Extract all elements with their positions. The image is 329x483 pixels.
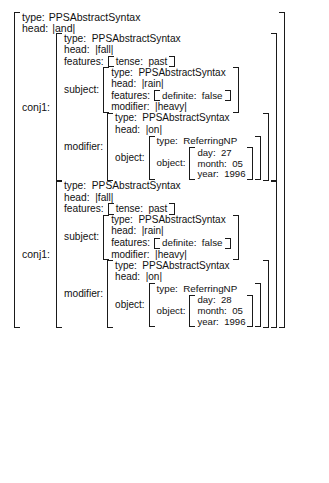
conj1-inner-object-label: object: <box>157 306 190 316</box>
conj1-features-bracket-left <box>108 203 114 214</box>
conj0-head-label: head: <box>64 44 92 55</box>
conj1-subject-avm: type: PPSAbstractSyntax head: |rain| fea <box>103 215 238 261</box>
conj0-modifier-head-value: |on| <box>146 124 162 135</box>
conj0-modifier-head-label: head: <box>115 124 143 135</box>
conj0-year-label: year: <box>197 168 221 179</box>
feature-structure-diagram: type: PPSAbstractSyntax head: |and| conj… <box>14 12 285 328</box>
conj0-subject-modifier-label: modifier: <box>111 101 152 112</box>
conj0-subject-features-label: features: <box>111 91 154 101</box>
conj0-subject-bracket-right <box>233 67 239 113</box>
conj0-date-bracket-left <box>189 147 195 179</box>
conj1-modifier-body: type: PPSAbstractSyntax head: |on| objec <box>115 260 261 328</box>
conj1-subject-type-value: PPSAbstractSyntax <box>138 214 225 225</box>
conj1-definite-value: false <box>202 237 223 248</box>
conj1-year-label: year: <box>197 316 221 327</box>
conj0-day-value: 27 <box>221 147 232 158</box>
conj0-features-bracket-left <box>108 56 114 67</box>
conj0-modifier-bracket-right <box>263 113 269 181</box>
conj1-modifier-label: modifier: <box>64 289 107 299</box>
conj0-tense-label: tense: <box>116 56 146 67</box>
conj0-subject-modifier-row: modifier: |heavy| <box>111 102 230 113</box>
conj0-subject-head-row: head: |rain| <box>111 79 230 90</box>
conj1-type-label: type: <box>64 180 89 191</box>
root-bracket-right <box>279 12 285 328</box>
conj0-features-bracket-right <box>169 56 175 67</box>
conj0-head-row: head: |fall| <box>64 45 269 56</box>
conj0-month-label: month: <box>197 158 229 169</box>
conj0-year-row: year: 1996 <box>197 169 245 180</box>
conj1-subject-modifier-label: modifier: <box>111 249 152 260</box>
conj1-modifier-head-row: head: |on| <box>115 271 261 282</box>
conj0-object-label: object: <box>115 153 148 163</box>
conj0-month-row: month: 05 <box>197 158 245 169</box>
conj0-modifier-bracket-left <box>107 113 113 181</box>
conj0-object-row: object: type: ReferringNP <box>115 135 261 180</box>
conj0-subject-features-bracket-left <box>154 90 160 101</box>
conj1-subject-head-row: head: |rain| <box>111 226 230 237</box>
conj1-month-label: month: <box>197 305 229 316</box>
conj0-subject-features-bracket-right <box>225 90 231 101</box>
conj1-tense-label: tense: <box>116 203 146 214</box>
conj0-date-avm: day: 27 month: 05 <box>189 147 253 179</box>
conjunct-bracket-right-0 <box>271 33 277 180</box>
conj1-subject-head-label: head: <box>111 225 139 236</box>
conj1-object-row: object: type: ReferringNP <box>115 283 261 328</box>
conj0-type-label: type: <box>64 33 89 44</box>
conj1-subject-bracket-left <box>103 215 109 261</box>
conj0-object-type-label: type: <box>157 135 181 146</box>
conj0-modifier-row: modifier: type: PPSAbstractSyntax <box>64 113 269 181</box>
conj0-modifier-body: type: PPSAbstractSyntax head: |on| objec <box>115 113 261 181</box>
conj1-head-value: |fall| <box>95 192 113 203</box>
conj1-features-bracket-right <box>169 203 175 214</box>
conj1-type-row: type: PPSAbstractSyntax <box>64 181 269 192</box>
conj0-subject-head-label: head: <box>111 78 139 89</box>
conj0-object-body: type: ReferringNP object: <box>157 136 254 180</box>
conj0-subject-label: subject: <box>64 85 103 95</box>
conj0-object-avm: type: ReferringNP object: <box>149 136 262 180</box>
conj1-subject-features-row: features: definite: false <box>111 237 230 249</box>
conj1-day-label: day: <box>197 294 218 305</box>
conj1-object-bracket-left <box>149 283 155 327</box>
conjunct-row-0: conj1: type: PPSAbstractSyntax head: |fa… <box>22 33 277 180</box>
conj1-object-label: object: <box>115 300 148 310</box>
conj1-modifier-type-row: type: PPSAbstractSyntax <box>115 260 261 271</box>
conj1-head-label: head: <box>64 192 92 203</box>
conj0-modifier-type-row: type: PPSAbstractSyntax <box>115 113 261 124</box>
conj1-head-row: head: |fall| <box>64 192 269 203</box>
conj0-subject-modifier-value: |heavy| <box>155 101 187 112</box>
conj1-modifier-bracket-left <box>107 260 113 328</box>
conj0-modifier-head-row: head: |on| <box>115 124 261 135</box>
conjunct-body-1: type: PPSAbstractSyntax head: |fall| fea… <box>64 181 269 328</box>
conj1-object-body: type: ReferringNP object: <box>157 283 254 327</box>
conjunct-avm-0: type: PPSAbstractSyntax head: |fall| fea… <box>56 33 277 180</box>
conj0-date-bracket-right <box>247 147 253 179</box>
conj1-year-row: year: 1996 <box>197 316 245 327</box>
conj1-object-type-value: ReferringNP <box>183 283 237 294</box>
root-avm-body: type: PPSAbstractSyntax head: |and| conj… <box>22 12 277 328</box>
root-head-label: head: <box>22 23 52 34</box>
conj1-subject-label: subject: <box>64 232 103 242</box>
conj1-modifier-avm: type: PPSAbstractSyntax head: |on| objec <box>107 260 269 328</box>
conj0-subject-head-value: |rain| <box>142 78 164 89</box>
conj0-subject-avm: type: PPSAbstractSyntax head: |rain| fea <box>103 67 238 113</box>
conj0-definite-label: definite: <box>162 90 199 101</box>
conj1-features-row: features: tense: past <box>64 203 269 214</box>
conj1-modifier-bracket-right <box>263 260 269 328</box>
conj0-tense-value: past <box>149 56 168 67</box>
conj1-modifier-type-value: PPSAbstractSyntax <box>142 260 229 271</box>
conj1-subject-modifier-value: |heavy| <box>155 249 187 260</box>
conj1-modifier-type-label: type: <box>115 260 139 271</box>
conj0-features-label: features: <box>64 57 108 67</box>
conj0-subject-features-row: features: definite: false <box>111 90 230 102</box>
conj0-object-bracket-right <box>255 136 261 180</box>
conj1-subject-body: type: PPSAbstractSyntax head: |rain| fea <box>111 215 230 261</box>
conj0-features-body: tense: past <box>116 56 168 67</box>
conj0-modifier-avm: type: PPSAbstractSyntax head: |on| objec <box>107 113 269 181</box>
conj1-subject-features-body: definite: false <box>162 238 222 249</box>
conj0-day-label: day: <box>197 147 218 158</box>
conj0-type-row: type: PPSAbstractSyntax <box>64 33 269 44</box>
conj1-subject-modifier-row: modifier: |heavy| <box>111 249 230 260</box>
conj0-head-value: |fall| <box>95 44 113 55</box>
conj0-month-value: 05 <box>232 158 243 169</box>
conj1-day-row: day: 28 <box>197 295 245 306</box>
